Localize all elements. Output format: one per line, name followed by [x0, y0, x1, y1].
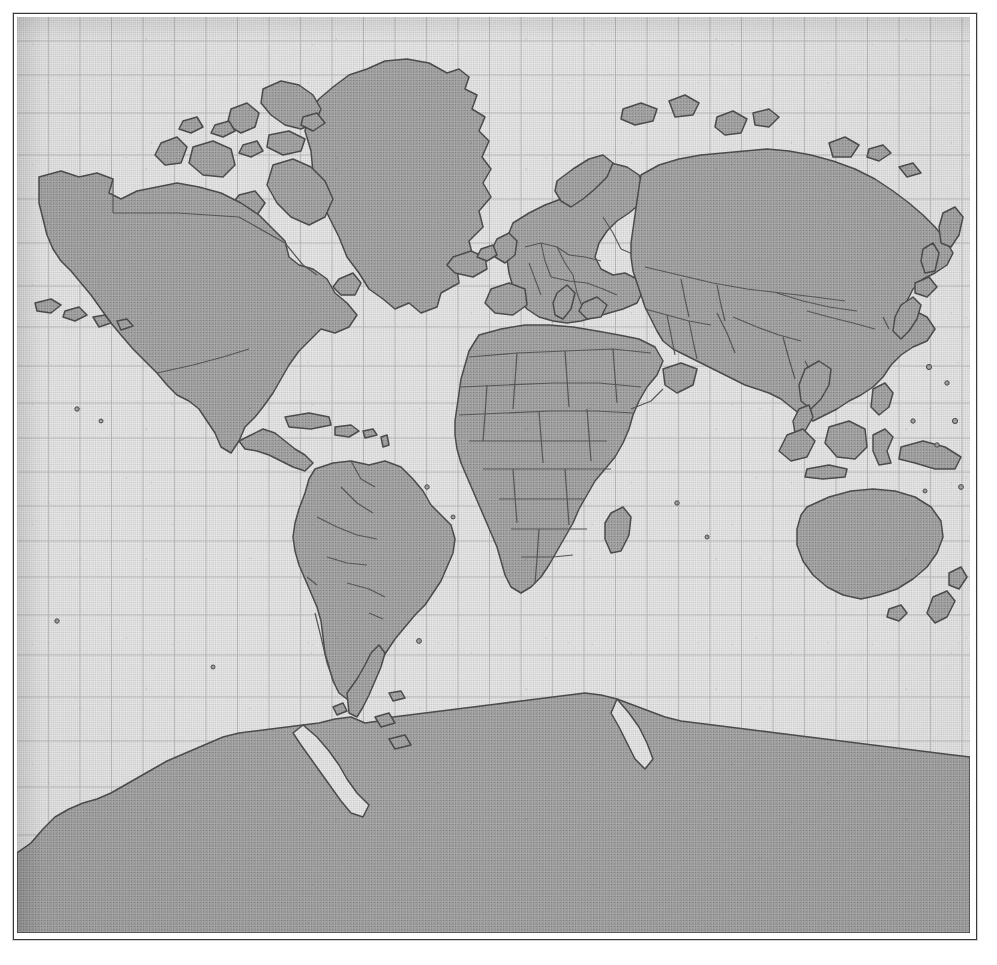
scanned-page [0, 0, 997, 965]
map-frame [13, 13, 977, 940]
world-map-image[interactable] [17, 17, 970, 933]
landmass-lesser-antilles [381, 435, 389, 447]
world-map-viewport[interactable] [17, 17, 970, 933]
landmass-cuba [285, 413, 331, 429]
page-caption [13, 942, 975, 960]
